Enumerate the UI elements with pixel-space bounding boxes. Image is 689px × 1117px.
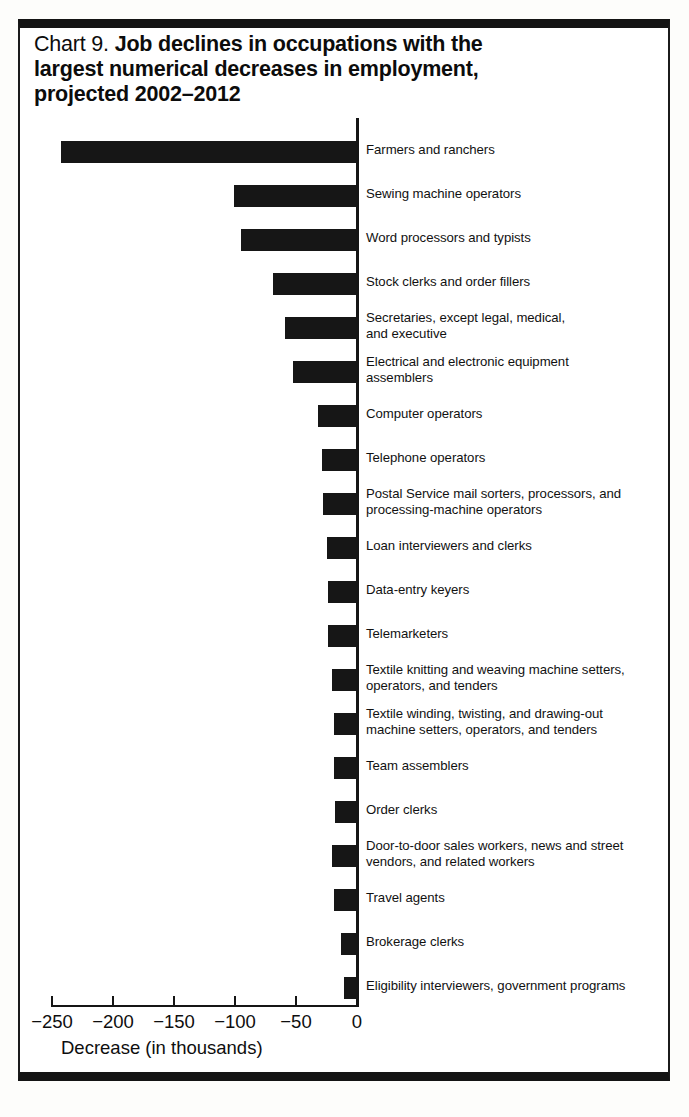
bar-row: Data-entry keyers bbox=[0, 570, 689, 614]
bar bbox=[327, 537, 356, 559]
x-tick-label: −200 bbox=[92, 1011, 134, 1033]
x-tick-mark bbox=[295, 996, 297, 1006]
bar-row: Sewing machine operators bbox=[0, 174, 689, 218]
x-tick-label: −50 bbox=[280, 1011, 311, 1033]
bar-row: Order clerks bbox=[0, 790, 689, 834]
bar-row: Team assemblers bbox=[0, 746, 689, 790]
bar-category-label: Word processors and typists bbox=[366, 230, 531, 246]
bar bbox=[241, 229, 356, 251]
bar-row: Farmers and ranchers bbox=[0, 130, 689, 174]
bar bbox=[285, 317, 356, 339]
bar-row: Travel agents bbox=[0, 878, 689, 922]
bar bbox=[332, 845, 356, 867]
bar bbox=[334, 757, 356, 779]
x-tick-mark bbox=[112, 996, 114, 1006]
bar-row: Door-to-door sales workers, news and str… bbox=[0, 834, 689, 878]
bar-row: Eligibility interviewers, government pro… bbox=[0, 966, 689, 1010]
bar-category-label: Textile winding, twisting, and drawing-o… bbox=[366, 706, 603, 737]
bar-category-label: Travel agents bbox=[366, 890, 445, 906]
bar-category-label: Postal Service mail sorters, processors,… bbox=[366, 486, 621, 517]
bar-row: Postal Service mail sorters, processors,… bbox=[0, 482, 689, 526]
bar bbox=[341, 933, 356, 955]
bar bbox=[322, 449, 356, 471]
bar-row: Stock clerks and order fillers bbox=[0, 262, 689, 306]
x-tick-label: −150 bbox=[153, 1011, 195, 1033]
bar-category-label: Computer operators bbox=[366, 406, 482, 422]
x-axis-title: Decrease (in thousands) bbox=[61, 1037, 263, 1059]
bar-category-label: Team assemblers bbox=[366, 758, 469, 774]
bar-category-label: Eligibility interviewers, government pro… bbox=[366, 978, 625, 994]
bar-row: Textile winding, twisting, and drawing-o… bbox=[0, 702, 689, 746]
bar-category-label: Door-to-door sales workers, news and str… bbox=[366, 838, 623, 869]
x-tick-mark bbox=[51, 996, 53, 1006]
bar-row: Brokerage clerks bbox=[0, 922, 689, 966]
bar-row: Electrical and electronic equipment asse… bbox=[0, 350, 689, 394]
bar bbox=[293, 361, 356, 383]
bar-row: Telemarketers bbox=[0, 614, 689, 658]
bar-category-label: Textile knitting and weaving machine set… bbox=[366, 662, 625, 693]
bar bbox=[273, 273, 356, 295]
bar-category-label: Order clerks bbox=[366, 802, 437, 818]
bar-row: Computer operators bbox=[0, 394, 689, 438]
bar-category-label: Loan interviewers and clerks bbox=[366, 538, 532, 554]
x-tick-label: −250 bbox=[31, 1011, 73, 1033]
bar bbox=[334, 889, 356, 911]
x-tick-mark bbox=[173, 996, 175, 1006]
bar-category-label: Electrical and electronic equipment asse… bbox=[366, 354, 569, 385]
x-tick-mark bbox=[234, 996, 236, 1006]
bar-row: Secretaries, except legal, medical, and … bbox=[0, 306, 689, 350]
bar-row: Word processors and typists bbox=[0, 218, 689, 262]
bar bbox=[332, 669, 356, 691]
bar bbox=[335, 801, 356, 823]
bar bbox=[328, 625, 356, 647]
bar bbox=[61, 141, 356, 163]
bar bbox=[334, 713, 356, 735]
chart-page: Chart 9. Job declines in occupations wit… bbox=[0, 0, 689, 1117]
bar-category-label: Telemarketers bbox=[366, 626, 448, 642]
bar-row: Telephone operators bbox=[0, 438, 689, 482]
plot-area: Farmers and ranchersSewing machine opera… bbox=[0, 0, 689, 1117]
bar-category-label: Data-entry keyers bbox=[366, 582, 469, 598]
bar bbox=[328, 581, 356, 603]
bar-category-label: Brokerage clerks bbox=[366, 934, 464, 950]
bar-row: Textile knitting and weaving machine set… bbox=[0, 658, 689, 702]
bar-row: Loan interviewers and clerks bbox=[0, 526, 689, 570]
bar-category-label: Telephone operators bbox=[366, 450, 485, 466]
bar-category-label: Farmers and ranchers bbox=[366, 142, 495, 158]
x-axis-line bbox=[51, 1005, 359, 1007]
bar bbox=[323, 493, 356, 515]
x-tick-label: 0 bbox=[352, 1011, 362, 1033]
bar-category-label: Stock clerks and order fillers bbox=[366, 274, 530, 290]
bar-category-label: Sewing machine operators bbox=[366, 186, 521, 202]
bar bbox=[234, 185, 356, 207]
bar bbox=[344, 977, 356, 999]
x-tick-label: −100 bbox=[214, 1011, 256, 1033]
x-tick-mark bbox=[356, 996, 358, 1006]
bar-category-label: Secretaries, except legal, medical, and … bbox=[366, 310, 565, 341]
bar bbox=[318, 405, 356, 427]
